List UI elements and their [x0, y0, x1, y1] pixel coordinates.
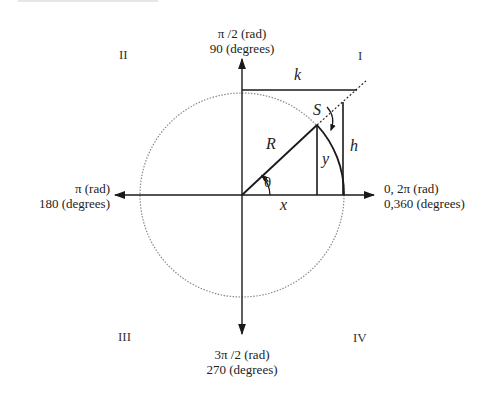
axis-label-bottom: 3π /2 (rad) 270 (degrees)	[197, 347, 287, 377]
axis-label-left-deg: 180 (degrees)	[10, 196, 110, 211]
extension-ray	[317, 80, 367, 125]
variable-label-theta: θ	[264, 174, 271, 191]
radius-r	[242, 125, 317, 195]
axis-label-left-rad: π (rad)	[10, 181, 110, 196]
axis-label-right-rad: 0, 2π (rad)	[384, 181, 484, 196]
variable-label-y: y	[322, 150, 329, 168]
variable-label-r: R	[266, 135, 276, 153]
axis-label-bottom-deg: 270 (degrees)	[197, 362, 287, 377]
axis-label-bottom-rad: 3π /2 (rad)	[197, 347, 287, 362]
variable-label-s: S	[313, 101, 321, 119]
axis-label-top: π /2 (rad) 90 (degrees)	[202, 26, 282, 56]
quadrant-label-i: I	[358, 48, 362, 64]
quadrant-label-iv: IV	[353, 330, 367, 346]
variable-label-x: x	[280, 196, 287, 214]
s-direction-arrow	[327, 107, 333, 130]
axis-label-right: 0, 2π (rad) 0,360 (degrees)	[384, 181, 484, 211]
quadrant-label-ii: II	[119, 47, 128, 63]
variable-label-h: h	[350, 137, 358, 155]
axis-label-right-deg: 0,360 (degrees)	[384, 196, 484, 211]
quadrant-label-iii: III	[118, 329, 131, 345]
axis-label-top-rad: π /2 (rad)	[202, 26, 282, 41]
axis-label-left: π (rad) 180 (degrees)	[10, 181, 110, 211]
variable-label-k: k	[294, 66, 301, 84]
axis-label-top-deg: 90 (degrees)	[202, 41, 282, 56]
